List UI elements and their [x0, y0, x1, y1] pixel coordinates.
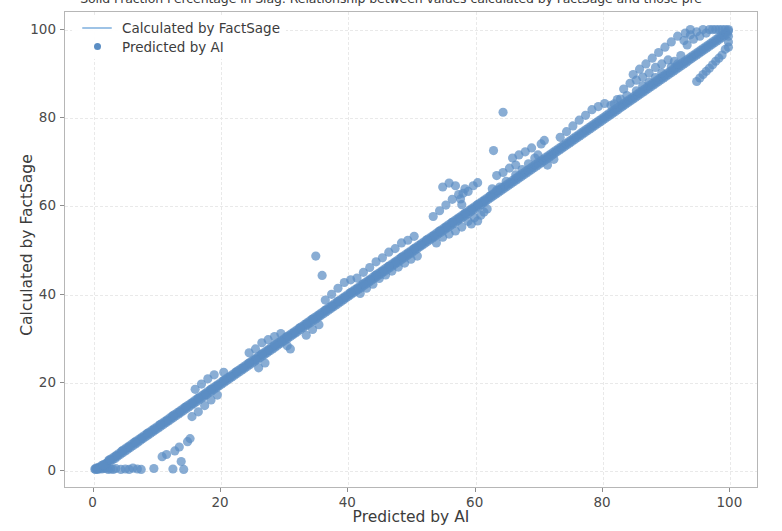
legend-item-predicted-by-ai[interactable]: Predicted by AI [76, 37, 280, 56]
y-tick-label: 0 [16, 462, 56, 478]
scatter-point [673, 59, 682, 68]
scatter-point [511, 170, 520, 179]
x-tick-mark [602, 488, 603, 492]
scatter-point [286, 344, 295, 353]
x-tick-mark [220, 488, 221, 492]
y-tick-label: 40 [16, 286, 56, 302]
scatter-point [451, 181, 460, 190]
scatter-point [488, 184, 497, 193]
scatter-point [175, 442, 184, 451]
scatter-point [456, 194, 465, 203]
scatter-point [177, 457, 186, 466]
x-tick-mark [93, 488, 94, 492]
chart-legend: Calculated by FactSage Predicted by AI [72, 16, 286, 59]
plot-area [64, 11, 758, 488]
scatter-point [632, 86, 641, 95]
y-tick-label: 100 [16, 21, 56, 37]
chart-title: Solid Fraction Percentage in Slag: Relat… [0, 0, 782, 6]
scatter-point [498, 168, 507, 177]
legend-marker-swatch [76, 43, 118, 50]
scatter-point [543, 160, 552, 169]
scatter-point [168, 464, 177, 473]
scatter-point [311, 252, 320, 261]
scatter-point [137, 465, 146, 474]
scatter-points [65, 12, 757, 487]
scatter-point [483, 204, 492, 213]
scatter-point [527, 143, 536, 152]
y-tick-label: 60 [16, 197, 56, 213]
scatter-point [99, 460, 108, 469]
scatter-point [498, 108, 507, 117]
scatter-point [489, 146, 498, 155]
x-tick-mark [475, 488, 476, 492]
scatter-point [185, 434, 194, 443]
scatter-point [260, 358, 269, 367]
scatter-point [540, 136, 549, 145]
scatter-point [410, 232, 419, 241]
scatter-point [473, 178, 482, 187]
legend-line-swatch [76, 27, 118, 29]
x-axis-label: Predicted by AI [64, 508, 758, 526]
legend-label: Calculated by FactSage [118, 20, 280, 36]
scatter-point [162, 450, 171, 459]
legend-label: Predicted by AI [118, 39, 224, 55]
scatter-point [629, 70, 638, 79]
y-tick-label: 80 [16, 109, 56, 125]
scatter-point [692, 77, 701, 86]
x-tick-mark [729, 488, 730, 492]
y-axis-label: Calculated by FactSage [18, 75, 36, 415]
y-tick-label: 20 [16, 374, 56, 390]
scatter-point [717, 25, 726, 34]
scatter-point [318, 271, 327, 280]
scatter-point [210, 370, 219, 379]
chart-figure: Solid Fraction Percentage in Slag: Relat… [0, 0, 782, 531]
legend-item-calculated-by-factsage[interactable]: Calculated by FactSage [76, 18, 280, 37]
scatter-point [610, 99, 619, 108]
x-tick-mark [347, 488, 348, 492]
scatter-point [149, 464, 158, 473]
scatter-point [179, 465, 188, 474]
scatter-point [464, 187, 473, 196]
